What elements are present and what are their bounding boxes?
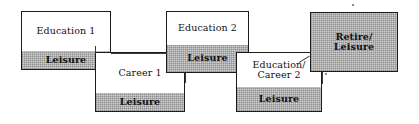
label-education-career-2-leisure: Leisure bbox=[259, 94, 299, 104]
segment-education-career-2-leisure: Leisure bbox=[237, 87, 321, 111]
scan-speck-bottom bbox=[325, 73, 327, 75]
connector-career1-stub bbox=[95, 46, 96, 53]
label-education-1-leisure: Leisure bbox=[46, 55, 86, 65]
segment-education-1-title: Education 1 bbox=[22, 12, 110, 51]
block-retire-leisure: Retire/ Leisure bbox=[310, 12, 398, 72]
connector-career1-right-stub bbox=[185, 73, 186, 83]
connector-educationcareer2-right-stub bbox=[322, 72, 323, 84]
label-education-2-leisure: Leisure bbox=[187, 53, 227, 63]
segment-retire-leisure: Retire/ Leisure bbox=[311, 13, 397, 71]
scan-speck-top bbox=[352, 4, 354, 6]
segment-career-1-leisure: Leisure bbox=[96, 93, 184, 111]
connector-education1-to-education2 bbox=[111, 53, 167, 54]
segment-education-career-2-title: Education/ Career 2 bbox=[237, 53, 321, 87]
label-retire-leisure: Retire/ Leisure bbox=[334, 32, 374, 53]
label-education-1: Education 1 bbox=[37, 26, 96, 36]
diagram-canvas: Education 1 Leisure Career 1 Leisure Edu… bbox=[0, 0, 419, 124]
label-education-career-2: Education/ Career 2 bbox=[252, 60, 305, 81]
label-career-1-leisure: Leisure bbox=[120, 97, 160, 107]
label-career-1: Career 1 bbox=[118, 68, 161, 78]
segment-education-2-title: Education 2 bbox=[167, 12, 248, 45]
label-education-2: Education 2 bbox=[178, 23, 237, 33]
